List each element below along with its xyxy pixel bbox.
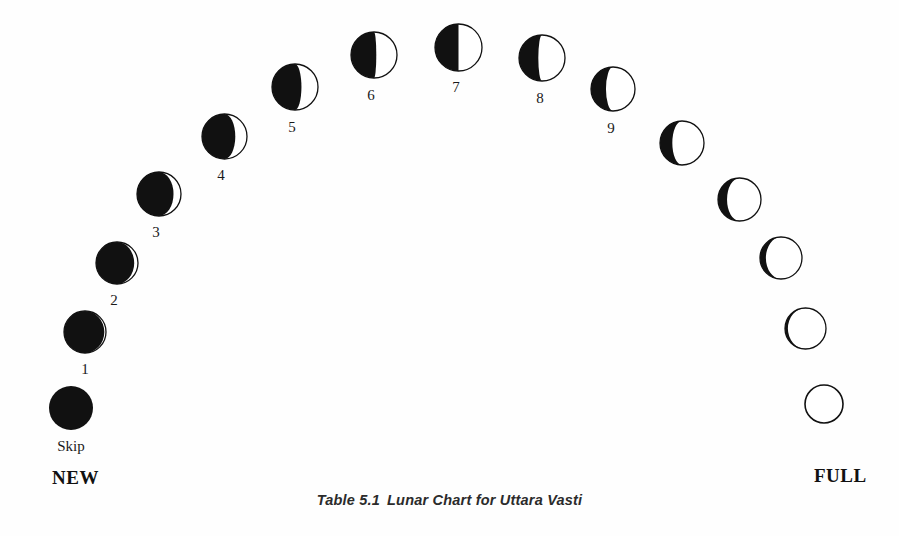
moon-phase-p13 [782, 305, 829, 352]
figure-caption: Table 5.1Lunar Chart for Uttara Vasti [0, 492, 899, 508]
phase-number-1: 1 [65, 362, 105, 377]
caption-text: Lunar Chart for Uttara Vasti [387, 492, 582, 508]
moon-shadow [351, 32, 376, 78]
phase-number-5: 5 [272, 120, 312, 135]
moon-phase-p6 [348, 29, 400, 81]
phase-number-4: 4 [201, 168, 241, 183]
lunar-phase-chart: Skip123456789 NEW FULL Table 5.1Lunar Ch… [0, 0, 899, 536]
moon-phase-p12 [757, 234, 805, 282]
skip-label: Skip [51, 439, 91, 454]
moon-shadow [64, 311, 104, 353]
moon-phase-p3 [134, 169, 184, 219]
moon-shadow [272, 64, 301, 110]
moon-phase-p2 [93, 239, 141, 287]
phase-number-6: 6 [351, 88, 391, 103]
phase-number-3: 3 [136, 225, 176, 240]
moon-phase-p14 [802, 382, 846, 426]
moon-phase-skip [46, 383, 96, 433]
phase-number-2: 2 [94, 293, 134, 308]
moon-phase-p4 [199, 111, 250, 162]
moon-phase-p8 [516, 32, 568, 84]
moon-phase-p9 [588, 64, 638, 114]
phase-number-7: 7 [436, 80, 476, 95]
moon-disc-outline [805, 385, 843, 423]
moon-phase-p1 [61, 308, 109, 356]
moon-shadow [202, 114, 235, 159]
moon-phase-p7 [432, 21, 485, 74]
moon-phase-p10 [657, 118, 707, 168]
moon-shadow [49, 386, 93, 430]
full-moon-endpoint-label: FULL [814, 466, 867, 485]
moon-shadow [435, 24, 458, 71]
phase-number-8: 8 [520, 91, 560, 106]
caption-number: Table 5.1 [317, 492, 380, 508]
new-moon-endpoint-label: NEW [52, 468, 99, 487]
moon-phase-p5 [269, 61, 321, 113]
moon-phase-p11 [715, 175, 764, 224]
phase-number-9: 9 [591, 121, 631, 136]
